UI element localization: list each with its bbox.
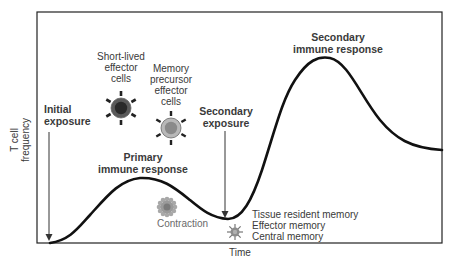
secondary-response-label-2: immune response [293,43,383,55]
memory-label-effector: Effector memory [252,220,325,231]
y-axis-label: T cell frequency [9,118,31,162]
memory-precursor-label-1: Memory [153,63,189,74]
initial-exposure-label-2: exposure [44,115,91,127]
initial-exposure-label-1: Initial [44,103,72,115]
short-lived-label-3: cells [111,73,131,84]
secondary-exposure-label-2: exposure [203,117,250,129]
x-axis-label: Time [229,247,251,258]
short-lived-label-2: effector [104,62,138,73]
y-axis-label-line1: T cell [9,128,20,152]
memory-precursor-label-4: cells [161,96,181,107]
cell-nucleus [115,102,127,114]
primary-response-label-1: Primary [123,151,162,163]
memory-label-tissue-resident: Tissue resident memory [252,209,358,220]
contraction-label: Contraction [157,218,208,229]
short-lived-label-1: Short-lived [97,51,145,62]
y-axis-label-line2: frequency [20,118,31,162]
memory-cell-icon [227,224,243,240]
memory-precursor-label-2: precursor [150,74,193,85]
cell-nucleus [164,204,171,211]
secondary-exposure-label-1: Secondary [199,105,253,117]
primary-response-label-2: immune response [98,163,188,175]
memory-precursor-label-3: effector [154,85,188,96]
secondary-response-label-1: Secondary [311,31,365,43]
cell-nucleus [165,122,177,134]
t-cell-response-diagram: T cell frequency Time Initial exposure S… [0,0,451,262]
memory-label-central: Central memory [252,231,323,242]
cell-nucleus [233,230,237,234]
